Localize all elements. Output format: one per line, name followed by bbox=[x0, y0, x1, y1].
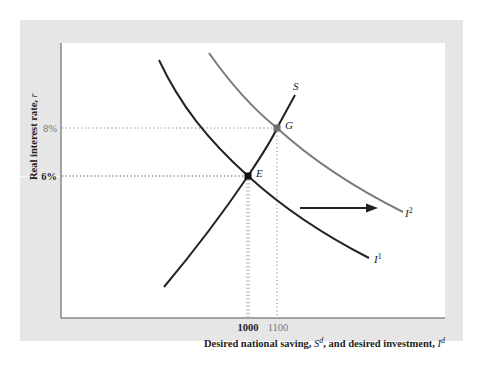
point-G-label: G bbox=[285, 119, 293, 131]
x-axis-title-part2: , and desired investment, bbox=[323, 338, 437, 349]
x-axis-title: Desired national saving, Sd, and desired… bbox=[204, 336, 446, 349]
x-tick-1000: 1000 bbox=[238, 322, 259, 333]
point-E-marker bbox=[245, 173, 252, 180]
y-axis-title-main: Real interest rate, bbox=[28, 97, 39, 180]
x-tick-1100: 1100 bbox=[268, 322, 289, 333]
point-G-marker bbox=[274, 125, 281, 132]
y-tick-8: 8% bbox=[43, 123, 57, 134]
chart-figure: E G S I2 I1 8% 6% 1000 1100 Real interes… bbox=[0, 0, 484, 369]
y-tick-6: 6% bbox=[41, 171, 57, 182]
x-axis-title-part1: Desired national saving, bbox=[204, 338, 314, 349]
point-E-label: E bbox=[255, 167, 263, 179]
curve-S-label: S bbox=[293, 80, 299, 92]
y-axis-title: Real interest rate, r bbox=[28, 92, 39, 180]
curve-I1-label-sup: 1 bbox=[378, 252, 382, 261]
chart-svg: E G S I2 I1 8% 6% 1000 1100 Real interes… bbox=[0, 0, 484, 369]
curve-I2-label-sup: 2 bbox=[409, 206, 413, 215]
